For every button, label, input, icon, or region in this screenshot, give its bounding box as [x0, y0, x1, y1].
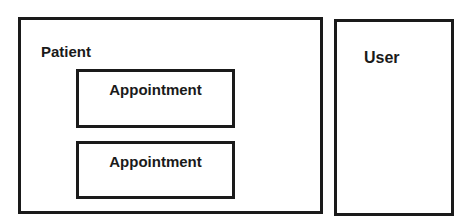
- appointment-label: Appointment: [79, 153, 232, 170]
- appointment-box: Appointment: [76, 69, 235, 128]
- user-box: User: [334, 19, 454, 216]
- appointment-label: Appointment: [79, 81, 232, 98]
- patient-label: Patient: [41, 43, 91, 60]
- user-label: User: [364, 49, 400, 67]
- appointment-box: Appointment: [76, 141, 235, 199]
- patient-box: Patient Appointment Appointment: [18, 17, 323, 214]
